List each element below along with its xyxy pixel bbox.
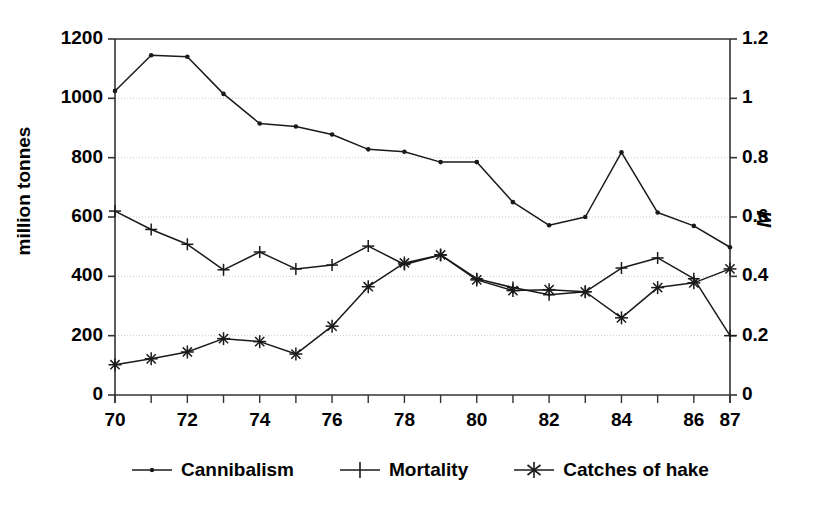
- data-point-dot: [257, 121, 262, 126]
- data-point-asterisk: [253, 335, 266, 348]
- y-tick-label-left: 1200: [13, 27, 103, 49]
- x-tick-label: 74: [235, 409, 285, 431]
- y-tick-label-left: 200: [13, 324, 103, 346]
- legend-item-catches-of-hake[interactable]: Catches of hake: [512, 459, 709, 481]
- data-point-dot: [511, 200, 516, 205]
- data-point-asterisk: [724, 262, 737, 275]
- data-point-asterisk: [579, 285, 592, 298]
- data-point-asterisk: [651, 281, 664, 294]
- data-point-dot: [330, 132, 335, 137]
- data-point-plus: [326, 259, 338, 271]
- y-tick-label-right: 0.4: [742, 264, 768, 286]
- data-point-plus: [218, 264, 230, 276]
- data-point-dot: [366, 147, 371, 152]
- y-tick-label-right: 1: [742, 86, 753, 108]
- y-tick-label-left: 1000: [13, 86, 103, 108]
- x-tick-label: 80: [452, 409, 502, 431]
- y-axis-label-left: million tonnes: [13, 91, 35, 291]
- data-point-dot: [692, 224, 697, 229]
- series-line-catches-of-hake: [115, 255, 730, 365]
- data-point-asterisk: [506, 284, 519, 297]
- dot-marker-icon: [130, 461, 174, 479]
- y-tick-label-left: 0: [13, 383, 103, 405]
- data-point-plus: [290, 263, 302, 275]
- data-point-asterisk: [434, 248, 447, 261]
- data-point-dot: [547, 223, 552, 228]
- data-point-dot: [113, 89, 118, 94]
- plot-area: [0, 0, 839, 514]
- data-point-dot: [221, 92, 226, 97]
- data-point-dot: [149, 53, 154, 58]
- data-point-asterisk: [615, 311, 628, 324]
- x-tick-label: 87: [705, 409, 755, 431]
- y-tick-label-left: 600: [13, 205, 103, 227]
- x-tick-label: 78: [379, 409, 429, 431]
- data-point-dot: [185, 55, 190, 60]
- series-line-mortality: [115, 211, 730, 336]
- data-point-plus: [109, 205, 121, 217]
- data-point-dot: [402, 149, 407, 154]
- data-point-asterisk: [362, 280, 375, 293]
- data-point-plus: [362, 240, 374, 252]
- y-tick-label-right: 0.2: [742, 324, 768, 346]
- data-point-dot: [728, 245, 733, 250]
- y-tick-label-right: 0.6: [742, 205, 768, 227]
- data-point-plus: [181, 238, 193, 250]
- data-point-dot: [294, 124, 299, 129]
- plus-marker-icon: [338, 461, 382, 479]
- data-point-plus: [724, 330, 736, 342]
- legend-label-cannibalism: Cannibalism: [181, 459, 294, 481]
- data-point-asterisk: [181, 345, 194, 358]
- data-point-dot: [619, 150, 624, 155]
- data-point-asterisk: [398, 256, 411, 269]
- data-point-asterisk: [217, 332, 230, 345]
- data-point-dot: [583, 215, 588, 220]
- x-tick-label: 82: [524, 409, 574, 431]
- data-point-asterisk: [326, 320, 339, 333]
- chart-legend: Cannibalism Mortality Catches of hake: [0, 459, 839, 481]
- chart-figure: million tonnes M 02004006008001000120000…: [0, 0, 839, 514]
- data-point-asterisk: [470, 273, 483, 286]
- legend-item-mortality[interactable]: Mortality: [338, 459, 468, 481]
- data-point-plus: [615, 262, 627, 274]
- series-line-cannibalism: [115, 55, 730, 247]
- data-point-plus: [145, 223, 157, 235]
- asterisk-marker-icon: [512, 461, 556, 479]
- legend-item-cannibalism[interactable]: Cannibalism: [130, 459, 294, 481]
- x-tick-label: 72: [162, 409, 212, 431]
- data-point-dot: [438, 160, 443, 165]
- y-tick-label-left: 400: [13, 264, 103, 286]
- x-tick-label: 84: [596, 409, 646, 431]
- data-point-asterisk: [687, 276, 700, 289]
- data-point-dot: [655, 210, 660, 215]
- y-tick-label-left: 800: [13, 146, 103, 168]
- y-tick-label-right: 0: [742, 383, 753, 405]
- data-point-asterisk: [543, 283, 556, 296]
- legend-label-catches-of-hake: Catches of hake: [563, 459, 709, 481]
- y-tick-label-right: 1.2: [742, 27, 768, 49]
- data-point-asterisk: [109, 358, 122, 371]
- data-point-dot: [474, 160, 479, 165]
- legend-label-mortality: Mortality: [389, 459, 468, 481]
- x-tick-label: 76: [307, 409, 357, 431]
- data-point-plus: [254, 246, 266, 258]
- data-point-asterisk: [289, 348, 302, 361]
- data-point-plus: [652, 252, 664, 264]
- data-point-asterisk: [145, 352, 158, 365]
- y-tick-label-right: 0.8: [742, 146, 768, 168]
- x-tick-label: 70: [90, 409, 140, 431]
